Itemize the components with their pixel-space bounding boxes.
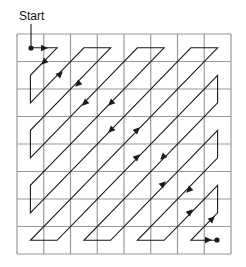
arrowhead-icon bbox=[205, 237, 212, 243]
arrowhead-icon bbox=[186, 207, 195, 216]
arrowhead-icon bbox=[80, 99, 89, 108]
arrowhead-icon bbox=[41, 45, 48, 51]
zigzag-scan-diagram bbox=[0, 0, 246, 267]
arrowhead-icon bbox=[159, 179, 168, 188]
end-dot-icon bbox=[214, 237, 219, 242]
arrowhead-icon bbox=[158, 153, 167, 162]
start-dot-icon bbox=[28, 45, 33, 50]
arrowhead-icon bbox=[56, 69, 65, 78]
arrowhead-icon bbox=[133, 152, 142, 161]
